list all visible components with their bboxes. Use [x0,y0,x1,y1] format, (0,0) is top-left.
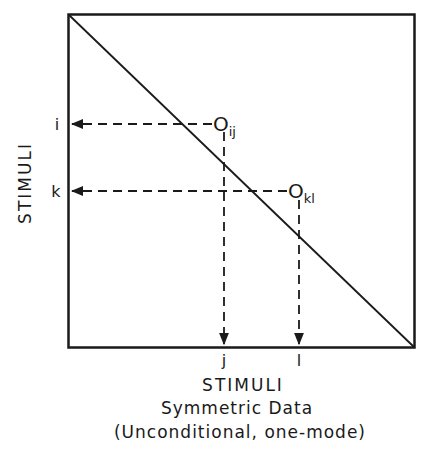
row-label-k: k [51,182,61,201]
symmetric-data-diagram: Oij Okl i k j l STIMULI STIMULI Symmetri… [0,0,431,451]
diagonal-line [69,15,414,347]
caption-line2: (Unconditional, one-mode) [114,422,366,442]
point-label-okl: Okl [288,179,315,206]
x-axis-label: STIMULI [202,375,284,395]
point-label-oij: Oij [213,112,236,139]
row-label-i: i [55,115,59,134]
caption-line1: Symmetric Data [161,398,313,418]
y-axis-label: STIMULI [15,142,35,224]
col-label-l: l [297,351,301,370]
col-label-j: j [221,351,226,370]
